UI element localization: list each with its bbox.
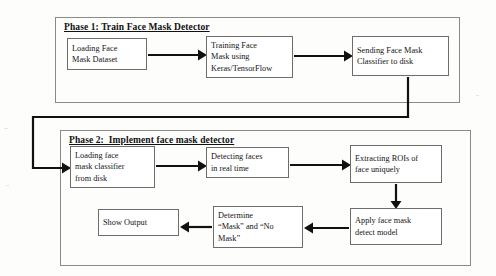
node-sending-face-mask-classifier[interactable]: Sending Face Mask Classifier to disk: [352, 36, 449, 76]
scan-speck: [4, 128, 8, 129]
flowchart-canvas: Phase 1: Train Face Mask Detector Phase …: [0, 0, 496, 276]
node-loading-face-mask-dataset[interactable]: Loading Face Mask Dataset: [67, 38, 147, 70]
scan-speck: [6, 185, 9, 186]
node-label: Loading face mask classifier from disk: [75, 150, 125, 184]
node-label: Extracting ROIs of face uniquely: [355, 153, 418, 175]
node-show-output[interactable]: Show Output: [98, 209, 179, 236]
node-label: Detecting faces in real time: [211, 151, 262, 173]
node-determine-mask-or-no-mask[interactable]: Determine “Mask” and “No Mask”: [213, 206, 303, 248]
node-detecting-faces[interactable]: Detecting faces in real time: [206, 147, 289, 178]
node-label: Loading Face Mask Dataset: [72, 43, 117, 65]
node-apply-face-mask-detect-model[interactable]: Apply face mask detect model: [350, 208, 442, 245]
node-label: Training Face Mask using Keras/TensorFlo…: [211, 40, 272, 74]
node-label: Sending Face Mask Classifier to disk: [357, 45, 422, 67]
node-label: Show Output: [103, 217, 147, 228]
node-label: Determine “Mask” and “No Mask”: [218, 210, 274, 244]
scan-speck: [476, 95, 479, 96]
phase-2-title: Phase 2: Implement face mask detector: [69, 135, 234, 145]
node-training-face-mask[interactable]: Training Face Mask using Keras/TensorFlo…: [206, 36, 293, 78]
node-loading-face-mask-classifier[interactable]: Loading face mask classifier from disk: [70, 146, 155, 188]
node-extracting-rois[interactable]: Extracting ROIs of face uniquely: [350, 145, 442, 183]
phase-1-title: Phase 1: Train Face Mask Detector: [64, 22, 210, 32]
node-label: Apply face mask detect model: [355, 215, 411, 237]
